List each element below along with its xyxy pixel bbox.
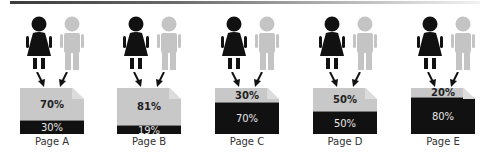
arrow-down-icon [327,72,341,88]
page-group-page-c: 30% 70% Page C [205,14,295,164]
male-figure-icon [157,16,181,72]
page-group-page-e: 20% 80% Page E [401,14,491,164]
page-label: Page D [303,136,387,147]
bottom-percentage: 80% [432,111,454,122]
page-fold-corner [72,88,84,99]
female-figure-icon [319,16,345,72]
arrow-down-icon [425,72,439,88]
bottom-percentage: 30% [41,122,63,133]
top-percentage: 70% [40,99,64,110]
top-percentage: 50% [333,94,357,105]
arrow-down-icon [349,72,363,88]
page-label: Page E [401,136,485,147]
arrow-down-icon [56,72,70,88]
page-label: Page A [10,136,94,147]
female-figure-icon [221,16,247,72]
bottom-segment: 70% [215,102,279,134]
bottom-segment: 19% [117,125,181,134]
bottom-percentage: 50% [334,118,356,129]
arrow-down-icon [153,72,167,88]
female-figure-icon [417,16,443,72]
header-gradient-bar [10,1,480,4]
document-icon: 70% 30% [20,88,84,134]
page-label: Page C [205,136,289,147]
bottom-percentage: 19% [138,125,160,135]
page-fold-corner [463,88,475,99]
page-group-page-d: 50% 50% Page D [303,14,393,164]
arrow-down-icon [447,72,461,88]
bottom-segment: 50% [313,111,377,134]
female-figure-icon [26,16,52,72]
bottom-segment: 80% [411,97,475,134]
arrow-down-icon [131,72,145,88]
male-figure-icon [255,16,279,72]
page-fold-corner [365,88,377,99]
arrow-down-icon [229,72,243,88]
page-fold-corner [267,88,279,99]
top-percentage: 81% [137,101,161,112]
page-group-page-b: 81% 19% Page B [107,14,197,164]
document-icon: 50% 50% [313,88,377,134]
document-icon: 81% 19% [117,88,181,134]
page-fold-corner [169,88,181,99]
page-group-page-a: 70% 30% Page A [10,14,100,164]
male-figure-icon [60,16,84,72]
document-icon: 20% 80% [411,88,475,134]
male-figure-icon [353,16,377,72]
male-figure-icon [451,16,475,72]
bottom-segment: 30% [20,120,84,134]
page-label: Page B [107,136,191,147]
female-figure-icon [123,16,149,72]
arrow-down-icon [34,72,48,88]
document-icon: 30% 70% [215,88,279,134]
top-percentage: 30% [235,90,259,101]
arrow-down-icon [251,72,265,88]
bottom-percentage: 70% [236,113,258,124]
